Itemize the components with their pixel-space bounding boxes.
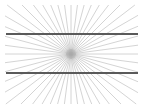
illusion-canvas <box>0 0 143 109</box>
hering-illusion-figure <box>0 0 143 109</box>
vanishing-point-glow <box>66 49 76 59</box>
